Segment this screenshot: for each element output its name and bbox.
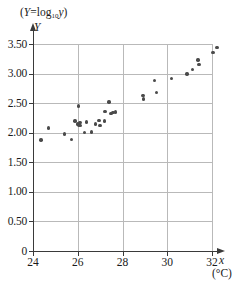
gridline-vertical	[167, 44, 168, 251]
data-point	[70, 138, 73, 141]
y-caption-eq: =log	[30, 6, 51, 18]
data-point	[85, 120, 88, 123]
data-point	[103, 110, 106, 113]
data-point	[79, 124, 82, 127]
data-point	[83, 131, 86, 134]
x-tick-label: 30	[155, 257, 179, 269]
y-tick-mark	[29, 133, 34, 134]
data-point	[39, 138, 42, 141]
data-point	[98, 124, 101, 127]
x-tick-label: 28	[111, 257, 135, 269]
y-axis-caption: (Y=log10y)	[20, 6, 67, 20]
data-point	[63, 132, 66, 135]
data-point	[77, 104, 80, 107]
data-point	[47, 126, 50, 129]
x-tick-label: 26	[66, 257, 90, 269]
y-tick-mark	[29, 103, 34, 104]
data-point	[114, 110, 117, 113]
x-axis-line	[33, 251, 221, 252]
data-point	[197, 63, 200, 66]
x-axis-arrow-icon	[217, 248, 225, 254]
gridline-vertical	[212, 44, 213, 251]
y-tick-label: 3.50	[8, 39, 27, 51]
data-point	[191, 68, 194, 71]
y-tick-label: 1.50	[8, 157, 27, 169]
data-point	[211, 51, 214, 54]
y-caption-sub: 10	[51, 12, 58, 20]
gridline-vertical	[123, 44, 124, 251]
y-tick-mark	[29, 162, 34, 163]
y-tick-mark	[29, 192, 34, 193]
y-axis-arrow-icon	[30, 23, 36, 31]
data-point	[103, 119, 106, 122]
scatter-plot-figure: (Y=log10y) Y x (°C) 00.501.001.502.002.5…	[0, 0, 240, 282]
data-point	[155, 91, 158, 94]
y-caption-close: )	[64, 6, 68, 18]
data-point	[185, 72, 188, 75]
y-axis-line	[33, 30, 34, 251]
data-point	[196, 58, 199, 61]
data-point	[97, 119, 100, 122]
y-tick-label: 2.50	[8, 98, 27, 110]
data-point	[142, 97, 145, 100]
y-tick-mark	[29, 221, 34, 222]
y-tick-label: 0	[21, 246, 27, 258]
data-point	[215, 46, 218, 49]
x-tick-label: 24	[21, 257, 45, 269]
data-point	[170, 77, 173, 80]
x-axis-units-label: (°C)	[212, 268, 232, 280]
y-tick-label: 2.00	[8, 127, 27, 139]
y-tick-mark	[29, 74, 34, 75]
y-tick-mark	[29, 44, 34, 45]
y-tick-label: 0.50	[8, 216, 27, 228]
gridline-vertical	[78, 44, 79, 251]
y-tick-label: 3.00	[8, 68, 27, 80]
y-tick-label: 1.00	[8, 186, 27, 198]
data-point	[107, 100, 110, 103]
data-point	[94, 122, 97, 125]
data-point	[153, 79, 156, 82]
x-tick-label: 32	[200, 257, 224, 269]
